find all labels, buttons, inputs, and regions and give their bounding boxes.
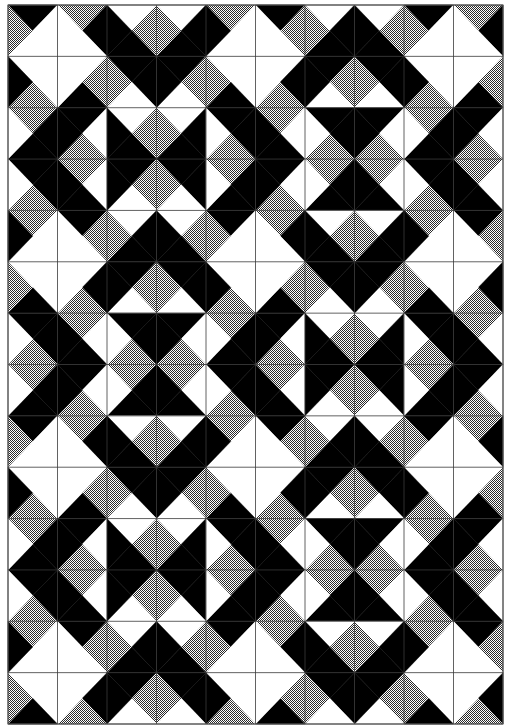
quilt-cell <box>157 519 207 570</box>
quilt-cell <box>404 570 454 621</box>
quilt-cell <box>305 570 355 621</box>
quilt-cell <box>157 262 207 313</box>
quilt-cell <box>58 159 108 210</box>
quilt-cell <box>256 262 306 313</box>
quilt-cell <box>305 519 355 570</box>
quilt-cell <box>454 673 504 724</box>
quilt-cell <box>404 621 454 672</box>
quilt-cell <box>305 108 355 159</box>
quilt-cell <box>355 570 405 621</box>
quilt-cell <box>107 313 157 364</box>
quilt-cell <box>404 210 454 261</box>
quilt-cell <box>58 416 108 467</box>
quilt-cell <box>107 365 157 416</box>
quilt-cell <box>404 467 454 518</box>
quilt-cell <box>454 5 504 56</box>
quilt-cell <box>8 519 58 570</box>
quilt-cell <box>157 621 207 672</box>
quilt-cell <box>8 570 58 621</box>
quilt-cell <box>206 108 256 159</box>
quilt-cell <box>8 108 58 159</box>
quilt-cell <box>206 519 256 570</box>
quilt-cell <box>355 5 405 56</box>
quilt-cell <box>355 621 405 672</box>
quilt-cell <box>256 467 306 518</box>
quilt-cell <box>454 262 504 313</box>
quilt-cell <box>58 313 108 364</box>
quilt-cell <box>305 673 355 724</box>
quilt-cell <box>8 159 58 210</box>
quilt-cell <box>404 313 454 364</box>
quilt-cell <box>58 5 108 56</box>
quilt-cell <box>107 210 157 261</box>
quilt-cell <box>355 210 405 261</box>
quilt-cell <box>157 467 207 518</box>
quilt-cell <box>454 159 504 210</box>
quilt-cell <box>58 519 108 570</box>
quilt-cell <box>454 570 504 621</box>
quilt-cell <box>58 262 108 313</box>
quilt-cell <box>305 416 355 467</box>
quilt-cell <box>107 467 157 518</box>
quilt-cell <box>107 159 157 210</box>
quilt-cell <box>404 365 454 416</box>
quilt-cell <box>107 621 157 672</box>
quilt-cell <box>355 262 405 313</box>
quilt-cell <box>157 210 207 261</box>
quilt-cell <box>256 56 306 107</box>
quilt-cell <box>8 313 58 364</box>
quilt-cell <box>58 673 108 724</box>
quilt-cell <box>206 262 256 313</box>
quilt-cell <box>157 570 207 621</box>
quilt-cell <box>206 416 256 467</box>
quilt-cell <box>8 416 58 467</box>
quilt-cell <box>355 159 405 210</box>
quilt-cell <box>107 519 157 570</box>
quilt-cell <box>58 570 108 621</box>
quilt-cell <box>157 56 207 107</box>
quilt-cell <box>206 313 256 364</box>
quilt-cell <box>404 108 454 159</box>
quilt-cell <box>454 416 504 467</box>
quilt-cell <box>256 210 306 261</box>
quilt-cell <box>404 262 454 313</box>
quilt-cell <box>8 365 58 416</box>
quilt-cell <box>305 313 355 364</box>
quilt-cell <box>355 519 405 570</box>
quilt-cell <box>256 5 306 56</box>
quilt-cell <box>58 621 108 672</box>
quilt-cell <box>157 365 207 416</box>
quilt-cell <box>454 56 504 107</box>
quilt-cell <box>355 416 405 467</box>
quilt-cell <box>256 108 306 159</box>
quilt-cell <box>256 570 306 621</box>
quilt-cell <box>256 313 306 364</box>
quilt-cell <box>454 365 504 416</box>
quilt-cell <box>8 467 58 518</box>
quilt-cell <box>355 108 405 159</box>
quilt-cell <box>8 262 58 313</box>
quilt-cell <box>454 621 504 672</box>
quilt-cell <box>256 673 306 724</box>
quilt-cell <box>305 5 355 56</box>
quilt-cell <box>157 5 207 56</box>
quilt-cell <box>305 621 355 672</box>
quilt-cell <box>454 313 504 364</box>
quilt-cell <box>157 159 207 210</box>
quilt-cell <box>256 621 306 672</box>
quilt-cell <box>404 673 454 724</box>
quilt-cell <box>107 262 157 313</box>
quilt-cell <box>107 416 157 467</box>
quilt-cell <box>206 159 256 210</box>
quilt-cell <box>355 365 405 416</box>
quilt-cell <box>107 570 157 621</box>
quilt-cell <box>404 56 454 107</box>
quilt-cell <box>454 108 504 159</box>
quilt-cell <box>58 210 108 261</box>
quilt-cell <box>305 159 355 210</box>
quilt-cell <box>305 262 355 313</box>
quilt-cell <box>8 673 58 724</box>
quilt-cell <box>107 108 157 159</box>
quilt-cell <box>157 416 207 467</box>
quilt-cell <box>8 56 58 107</box>
